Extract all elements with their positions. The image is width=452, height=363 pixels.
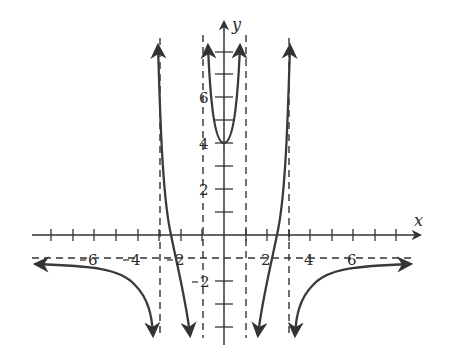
x-tick-label-neg2: 2 xyxy=(175,251,185,269)
x-tick-label-2: 2 xyxy=(261,251,271,269)
x-tick-label-4: 4 xyxy=(304,251,314,269)
y-axis-label: y xyxy=(231,15,242,34)
graph-figure: x y 6 4 2 2 4 6 6 4 2 2 xyxy=(0,0,452,363)
curves xyxy=(36,46,410,335)
y-tick-label-neg2: 2 xyxy=(200,273,210,291)
x-tick-label-neg6: 6 xyxy=(88,251,98,269)
x-tick-label-neg4: 4 xyxy=(131,251,141,269)
graph-svg: x y 6 4 2 2 4 6 6 4 2 2 xyxy=(0,0,452,363)
x-tick-label-6: 6 xyxy=(347,251,357,269)
y-tick-label-6: 6 xyxy=(199,89,209,107)
x-axis-label: x xyxy=(414,211,423,230)
y-tick-label-4: 4 xyxy=(199,135,209,153)
asymptotes xyxy=(32,35,412,338)
axes xyxy=(32,22,420,345)
curve-branch-1-3 xyxy=(258,46,290,335)
curve-right-branch xyxy=(295,264,410,335)
curve-branch-neg3-neg1 xyxy=(158,46,190,335)
y-tick-label-2: 2 xyxy=(199,181,209,199)
curve-left-branch xyxy=(36,264,153,335)
